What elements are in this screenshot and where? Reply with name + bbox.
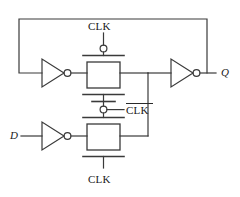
feedback-inverter-symbol bbox=[42, 59, 87, 87]
input-inverter-symbol bbox=[21, 122, 87, 150]
circuit-diagram: CLK CLK CLK D Q bbox=[0, 0, 240, 197]
clkbar-net-wire bbox=[92, 95, 124, 118]
slave-gate-top-clk-wire bbox=[100, 33, 107, 56]
schematic-canvas bbox=[0, 0, 240, 197]
clk-label-bottom: CLK bbox=[88, 174, 111, 185]
clkbar-label-group: CLK bbox=[126, 103, 149, 114]
clk-label-mid: CLK bbox=[126, 105, 149, 116]
input-label-d: D bbox=[10, 130, 18, 141]
feedback-net-wire bbox=[19, 19, 207, 73]
output-label-q: Q bbox=[221, 67, 229, 78]
slave-gate-symbol bbox=[83, 56, 148, 95]
clk-label-top: CLK bbox=[88, 21, 111, 32]
output-inverter-symbol bbox=[148, 59, 216, 87]
